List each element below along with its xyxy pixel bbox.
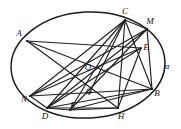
point-D [46, 107, 48, 109]
point-label-B: B [154, 89, 160, 98]
point-E [140, 47, 141, 48]
point-B [151, 88, 153, 90]
point-label-F: F [70, 101, 76, 110]
chord-MD [47, 29, 147, 108]
chord-BF [70, 89, 152, 110]
point-label-C: C [122, 7, 128, 16]
conic-label-alpha: α [165, 62, 170, 71]
point-label-D: D [42, 112, 49, 121]
point-N [29, 95, 31, 97]
point-label-G: G [86, 87, 93, 96]
point-F [69, 109, 70, 110]
point-label-A: A [16, 29, 22, 38]
point-label-N: N [21, 95, 27, 104]
chord-CF [70, 20, 125, 110]
point-A [26, 40, 28, 42]
geometry-figure: ACMEBHFDNOGα [0, 0, 181, 129]
point-H [117, 107, 119, 109]
point-label-O: O [85, 63, 92, 72]
point-label-H: H [118, 112, 125, 121]
chord-MB [147, 29, 152, 89]
point-M [146, 28, 148, 30]
point-C [124, 19, 126, 21]
point-label-E: E [143, 43, 149, 52]
point-label-M: M [146, 17, 154, 26]
